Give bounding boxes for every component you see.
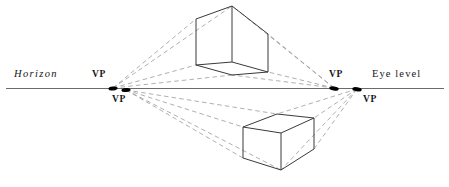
lower-box-edge-bottom-left: [243, 158, 281, 170]
upper-box-left-vp-lines: [113, 6, 232, 88]
upper-box-edge-bottom-back-left: [196, 65, 232, 75]
lower-box-left-vp-lines: [126, 90, 281, 170]
construction-line: [314, 89, 357, 118]
lower-box-edge-top-front-right: [281, 118, 314, 133]
vp-label-right-upper: VP: [329, 70, 343, 80]
vp-label-left-upper: VP: [92, 70, 106, 80]
upper-box-edge-top-right: [232, 6, 268, 34]
construction-line: [268, 72, 334, 88]
construction-line: [126, 90, 243, 158]
construction-line: [113, 19, 196, 88]
lower-box-edge-top-back-left: [243, 114, 277, 127]
vp-dot-right-upper: [329, 86, 339, 92]
construction-line: [113, 75, 232, 88]
upper-box-edge-bottom-front-right: [232, 62, 268, 72]
upper-box-edge-top-left: [196, 6, 232, 19]
upper-box-edge-bottom-front-left: [196, 62, 232, 65]
construction-line: [314, 89, 357, 149]
horizon-label: Horizon: [14, 69, 58, 80]
lower-box-edge-top-back-right: [277, 114, 314, 118]
vp-label-right-lower: VP: [363, 95, 377, 105]
perspective-diagram-figure: Horizon Eye level VP VP VP VP: [0, 0, 449, 187]
eye-level-label: Eye level: [372, 69, 421, 80]
upper-box: [196, 6, 268, 75]
construction-line: [113, 65, 196, 88]
construction-line: [232, 75, 334, 88]
diagram-canvas: [0, 0, 449, 187]
lower-box-edge-top-front-left: [243, 127, 281, 133]
vp-label-left-lower: VP: [112, 95, 126, 105]
lower-box: [243, 114, 314, 170]
construction-line: [113, 6, 232, 88]
upper-box-edge-bottom-back-right: [232, 72, 268, 75]
construction-line: [126, 90, 243, 127]
